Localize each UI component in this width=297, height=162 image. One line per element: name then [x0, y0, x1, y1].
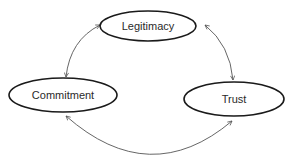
- edge-legitimacy-trust: [205, 25, 233, 80]
- edge-legitimacy-commitment: [66, 25, 100, 77]
- edge-commitment-trust: [66, 116, 232, 154]
- node-trust: Trust: [184, 82, 284, 116]
- node-commitment-label: Commitment: [32, 89, 94, 101]
- node-legitimacy: Legitimacy: [100, 11, 196, 41]
- relationship-cycle-diagram: Legitimacy Commitment Trust: [0, 0, 297, 162]
- node-commitment: Commitment: [9, 78, 117, 112]
- node-legitimacy-label: Legitimacy: [122, 20, 175, 32]
- node-trust-label: Trust: [222, 93, 247, 105]
